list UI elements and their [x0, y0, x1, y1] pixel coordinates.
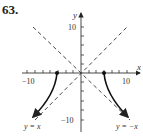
y-neg-label: −10 [61, 116, 74, 125]
graph: x y −10 10 10 −10 y = x y = −x [0, 0, 143, 139]
x-neg-label: −10 [22, 77, 35, 86]
asymptote-left-label: y = x [23, 122, 41, 131]
left-endpoint-dot [55, 71, 59, 75]
y-pos-label: 10 [68, 23, 76, 32]
left-branch-curve [33, 73, 57, 117]
x-axis-label: x [136, 62, 141, 72]
asymptote-right-label: y = −x [115, 122, 138, 131]
y-axis-label: y [72, 10, 77, 20]
x-pos-label: 10 [122, 77, 130, 86]
right-endpoint-dot [102, 71, 106, 75]
